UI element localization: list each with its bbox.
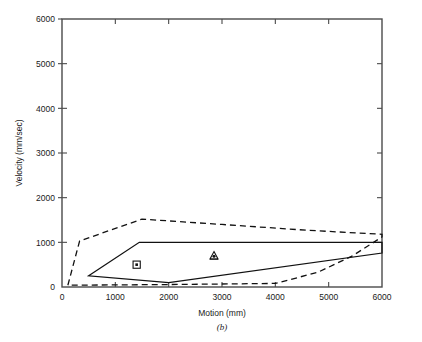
x-tick-label-4000: 4000 [266,292,285,302]
marker-square-dot [135,263,138,266]
figure-caption: (b) [217,322,228,332]
figure-container: 0100020003000400050006000010002000300040… [0,0,422,342]
marker-triangle-dot [213,255,216,258]
x-tick-label-0: 0 [60,292,65,302]
x-tick-label-5000: 5000 [319,292,338,302]
y-tick-label-4000: 4000 [36,104,55,114]
y-axis-title: Velocity (mm/sec) [14,119,24,186]
y-tick-label-5000: 5000 [36,59,55,69]
x-axis-title: Motion (mm) [198,308,246,318]
chart-background [0,0,422,342]
y-tick-label-0: 0 [50,282,55,292]
y-tick-label-6000: 6000 [36,14,55,24]
x-tick-label-2000: 2000 [159,292,178,302]
chart-canvas: 0100020003000400050006000010002000300040… [0,0,422,342]
x-tick-label-6000: 6000 [373,292,392,302]
y-tick-label-3000: 3000 [36,148,55,158]
x-tick-label-3000: 3000 [213,292,232,302]
y-tick-label-1000: 1000 [36,238,55,248]
y-tick-label-2000: 2000 [36,193,55,203]
x-tick-label-1000: 1000 [106,292,125,302]
